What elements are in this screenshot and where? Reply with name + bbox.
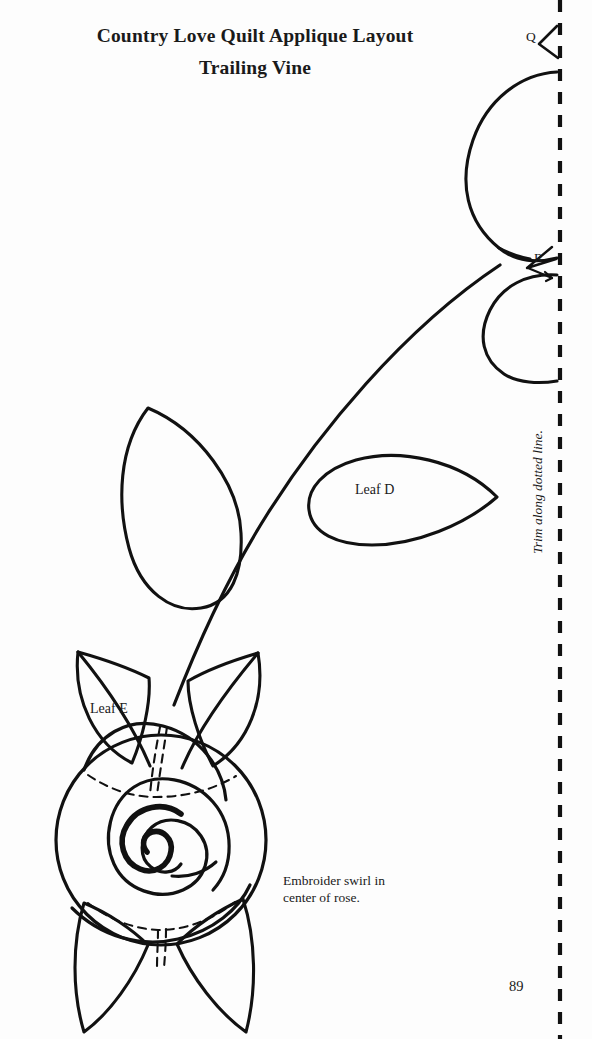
rose-inner-contour: [172, 862, 216, 876]
vine-stem: [174, 265, 500, 705]
pattern-page: Country Love Quilt Applique Layout Trail…: [0, 0, 592, 1039]
petal-q-shape: [466, 72, 557, 261]
rose-leaf-lower-left: [75, 903, 148, 1032]
embroider-note: Embroider swirl in center of rose.: [283, 873, 385, 907]
rose-leaf-lower-right: [177, 899, 254, 1032]
piece-q-label: Q: [526, 29, 536, 45]
leaf-unlabeled-shape: [122, 408, 241, 609]
embroidery-swirl: [122, 807, 181, 871]
title-line-2: Trailing Vine: [0, 58, 510, 78]
page-number: 89: [509, 978, 524, 995]
placement-guide-bottom-notch-2: [164, 929, 166, 968]
placement-guide-top-notch: [157, 727, 167, 795]
q-registration-mark: [539, 26, 558, 58]
rose-outer-circle: [56, 735, 266, 945]
leaf-d-label: Leaf D: [355, 482, 394, 498]
piece-r-label: R: [534, 250, 543, 266]
leaf-e-label: Leaf E: [90, 701, 128, 717]
page-title: Country Love Quilt Applique Layout Trail…: [0, 26, 510, 79]
rose-leaf-upper-right: [188, 653, 260, 766]
leaf-d-shape: [309, 456, 497, 545]
placement-guide-bottom-notch: [157, 930, 158, 968]
trim-along-dotted-line-note: Trim along dotted line.: [530, 354, 546, 554]
title-line-1: Country Love Quilt Applique Layout: [0, 26, 510, 46]
